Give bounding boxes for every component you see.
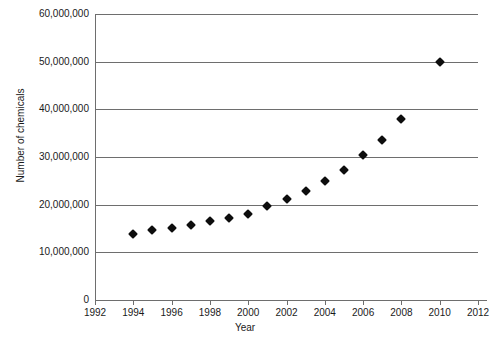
x-tick bbox=[172, 301, 173, 305]
x-tick-label: 1994 bbox=[113, 307, 153, 318]
x-tick bbox=[133, 301, 134, 305]
gridline bbox=[95, 252, 478, 253]
x-tick-label: 2000 bbox=[228, 307, 268, 318]
x-tick bbox=[401, 301, 402, 305]
y-tick-label: 20,000,000 bbox=[39, 200, 89, 210]
x-tick bbox=[325, 301, 326, 305]
plot-area bbox=[95, 14, 478, 300]
y-tick-label: 0 bbox=[83, 295, 89, 305]
x-tick-label: 2002 bbox=[267, 307, 307, 318]
x-tick bbox=[287, 301, 288, 305]
x-tick-label: 2004 bbox=[305, 307, 345, 318]
x-tick-label: 2010 bbox=[420, 307, 460, 318]
x-axis-line bbox=[95, 300, 487, 301]
x-tick-label: 1996 bbox=[152, 307, 192, 318]
x-tick bbox=[440, 301, 441, 305]
y-tick-label: 60,000,000 bbox=[39, 9, 89, 19]
y-tick-label: 10,000,000 bbox=[39, 247, 89, 257]
y-axis-title: Number of chemicals bbox=[15, 71, 26, 201]
x-tick-label: 1998 bbox=[190, 307, 230, 318]
y-tick-label: 40,000,000 bbox=[39, 104, 89, 114]
y-axis-line bbox=[95, 14, 96, 301]
x-tick bbox=[95, 301, 96, 305]
x-axis-title: Year bbox=[0, 322, 490, 333]
data-point bbox=[167, 223, 177, 233]
y-tick-label: 50,000,000 bbox=[39, 57, 89, 67]
data-point bbox=[377, 135, 387, 145]
data-point bbox=[301, 186, 311, 196]
gridline bbox=[95, 62, 478, 63]
data-point bbox=[339, 165, 349, 175]
y-axis-tick-labels: 010,000,00020,000,00030,000,00040,000,00… bbox=[0, 0, 89, 343]
data-point bbox=[262, 201, 272, 211]
chart-container: 010,000,00020,000,00030,000,00040,000,00… bbox=[0, 0, 490, 343]
gridline bbox=[95, 157, 478, 158]
x-tick bbox=[248, 301, 249, 305]
data-point bbox=[243, 209, 253, 219]
data-point bbox=[396, 114, 406, 124]
data-point bbox=[147, 225, 157, 235]
x-tick-label: 2008 bbox=[381, 307, 421, 318]
data-point bbox=[358, 150, 368, 160]
x-tick bbox=[478, 301, 479, 305]
data-point bbox=[320, 176, 330, 186]
data-point bbox=[224, 213, 234, 223]
x-tick-label: 2012 bbox=[458, 307, 490, 318]
gridline bbox=[95, 14, 478, 15]
data-point bbox=[282, 194, 292, 204]
gridline bbox=[95, 205, 478, 206]
data-point bbox=[186, 220, 196, 230]
gridline bbox=[95, 109, 478, 110]
x-tick-label: 2006 bbox=[343, 307, 383, 318]
x-tick-label: 1992 bbox=[75, 307, 115, 318]
x-tick bbox=[210, 301, 211, 305]
x-tick bbox=[363, 301, 364, 305]
data-point bbox=[128, 229, 138, 239]
data-point bbox=[205, 216, 215, 226]
y-tick-label: 30,000,000 bbox=[39, 152, 89, 162]
data-point bbox=[435, 57, 445, 67]
